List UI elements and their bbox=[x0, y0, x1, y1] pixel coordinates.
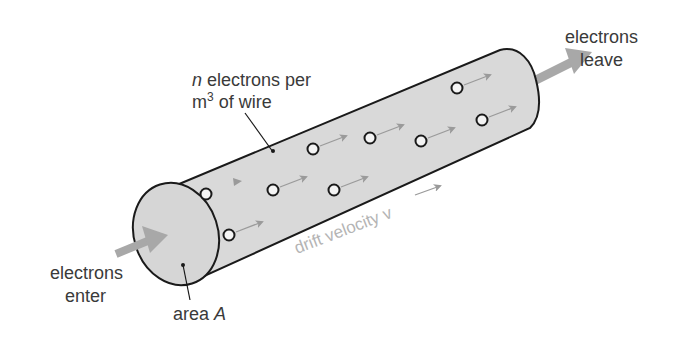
drift-velocity-arrow bbox=[415, 186, 440, 195]
density-leader-line bbox=[245, 113, 273, 152]
area-point bbox=[181, 263, 185, 267]
density-point bbox=[271, 149, 275, 153]
electron-drift-diagram: n electrons per m3 of wire electrons lea… bbox=[0, 0, 694, 353]
electrons-leave-label-line2: leave bbox=[580, 50, 623, 70]
electrons-enter-label-line2: enter bbox=[65, 286, 106, 306]
electron-2 bbox=[224, 230, 235, 241]
density-label-line2: m3 of wire bbox=[192, 90, 272, 112]
electrons-leave-label-line1: electrons bbox=[565, 27, 638, 47]
wire-cylinder bbox=[120, 49, 539, 296]
electron-1 bbox=[201, 189, 212, 200]
electron-8 bbox=[452, 83, 463, 94]
electron-7 bbox=[416, 136, 427, 147]
area-label: area A bbox=[173, 304, 226, 324]
electron-5 bbox=[308, 144, 319, 155]
density-label-line1: n electrons per bbox=[192, 70, 311, 90]
electron-4 bbox=[329, 185, 340, 196]
electron-9 bbox=[477, 115, 488, 126]
electrons-enter-label-line1: electrons bbox=[50, 263, 123, 283]
electron-3 bbox=[268, 185, 279, 196]
electron-6 bbox=[365, 133, 376, 144]
